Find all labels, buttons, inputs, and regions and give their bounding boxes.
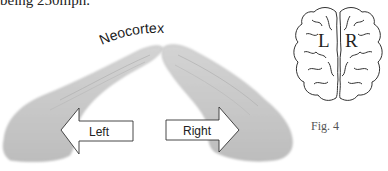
illustration: Neocortex Left Right L R xyxy=(0,0,388,171)
brain-icon xyxy=(294,8,382,101)
brain-left-label: L xyxy=(318,30,330,51)
right-hand xyxy=(162,45,292,161)
right-arrow-label: Right xyxy=(183,124,212,138)
hands-arch-image xyxy=(3,45,292,162)
left-arrow-label: Left xyxy=(89,125,110,139)
brain-right-label: R xyxy=(345,30,358,51)
figure-caption: Fig. 4 xyxy=(311,119,339,134)
neocortex-label: Neocortex xyxy=(97,20,165,48)
left-hand xyxy=(3,46,163,162)
left-hemisphere xyxy=(294,8,338,101)
